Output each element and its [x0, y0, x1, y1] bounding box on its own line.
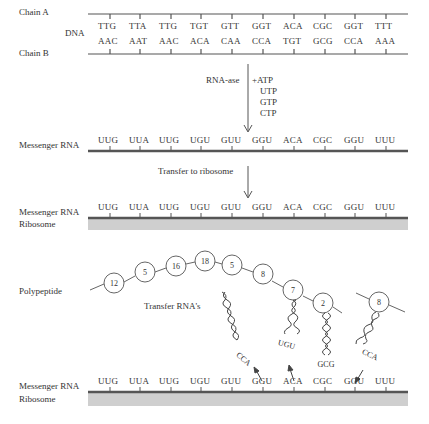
- mrna-2-label: Messenger RNA: [19, 207, 79, 217]
- codon: TGT: [283, 36, 301, 46]
- chain-a-label: Chain A: [19, 7, 49, 17]
- codon: GGU: [252, 202, 272, 212]
- svg-text:8: 8: [261, 270, 265, 279]
- substrate-atp: +ATP: [252, 75, 273, 85]
- polypeptide-chain: [90, 251, 405, 313]
- svg-text:7: 7: [291, 286, 295, 295]
- mrna-3-label: Messenger RNA: [19, 381, 79, 391]
- codon: UUG: [98, 135, 118, 145]
- ribosome-1: [88, 218, 408, 230]
- codon: UUA: [129, 135, 149, 145]
- svg-text:2: 2: [321, 299, 325, 308]
- svg-text:GCG: GCG: [318, 360, 335, 369]
- codon: AAC: [159, 36, 179, 46]
- anticodon-labels: CCA UGU GCG CCA: [234, 338, 379, 369]
- mrna-3-strand: [88, 387, 408, 392]
- codon: CAA: [221, 36, 241, 46]
- codon: ACA: [190, 36, 210, 46]
- codon: GUU: [221, 376, 241, 386]
- codon: UUU: [375, 202, 395, 212]
- codon: UUG: [159, 202, 179, 212]
- ribosome-2-label: Ribosome: [19, 394, 56, 404]
- codon: CGC: [313, 376, 332, 386]
- codon: GGU: [344, 376, 364, 386]
- codon: TTG: [159, 21, 177, 31]
- svg-text:5: 5: [143, 268, 147, 277]
- codon: TGT: [190, 21, 208, 31]
- codon: GGT: [252, 21, 271, 31]
- mrna-2-strand: [88, 213, 408, 218]
- transfer-arrow: [244, 166, 252, 198]
- rna-ase-label: RNA-ase: [206, 75, 240, 85]
- codon: UUG: [98, 376, 118, 386]
- trna-2-helix: [284, 300, 299, 334]
- codon: GGU: [252, 376, 272, 386]
- codon: UUU: [375, 135, 395, 145]
- codon: UUU: [375, 376, 395, 386]
- mrna-1-strand: [88, 146, 408, 151]
- codon: ACA: [283, 202, 303, 212]
- trna-4-helix: [356, 312, 379, 344]
- codon: AAA: [375, 36, 395, 46]
- codon: AAT: [129, 36, 147, 46]
- transcription-arrow: [244, 64, 252, 132]
- codon: GGU: [344, 135, 364, 145]
- codon: UUA: [129, 202, 149, 212]
- codon: GUU: [221, 135, 241, 145]
- dna-chain-b-strand: [88, 49, 408, 54]
- codon: TTA: [129, 21, 147, 31]
- svg-text:CCA: CCA: [361, 347, 380, 362]
- codon: GGT: [344, 21, 363, 31]
- substrate-utp: UTP: [260, 86, 277, 96]
- svg-text:CCA: CCA: [234, 350, 253, 368]
- svg-text:16: 16: [172, 262, 180, 271]
- codon: ACA: [283, 376, 303, 386]
- codon: UUG: [98, 202, 118, 212]
- codon: CGC: [313, 202, 332, 212]
- substrate-gtp: GTP: [260, 97, 277, 107]
- polypeptide-label: Polypeptide: [19, 286, 62, 296]
- codon: GTT: [221, 21, 239, 31]
- codon: ACA: [283, 21, 303, 31]
- codon: UGU: [190, 202, 210, 212]
- svg-text:5: 5: [230, 261, 234, 270]
- mrna-1-label: Messenger RNA: [19, 140, 79, 150]
- ribosome-1-label: Ribosome: [19, 219, 56, 229]
- codon: UUA: [129, 376, 149, 386]
- trna-3-helix: [323, 313, 331, 355]
- codon: ACA: [283, 135, 303, 145]
- codon: AAC: [98, 36, 118, 46]
- trna-helices: [222, 292, 379, 355]
- svg-text:18: 18: [201, 257, 209, 266]
- codon: CCA: [344, 36, 363, 46]
- dna-chain-a-strand: [88, 14, 408, 19]
- codon: GGU: [252, 135, 272, 145]
- trna-1-helix: [222, 292, 239, 340]
- dna-label: DNA: [65, 28, 85, 38]
- codon: GUU: [221, 202, 241, 212]
- codon: TTT: [375, 21, 392, 31]
- transfer-rnas-label: Transfer RNA's: [144, 301, 201, 311]
- transfer-to-ribosome-label: Transfer to ribosome: [158, 166, 233, 176]
- codon: CGC: [313, 135, 332, 145]
- svg-text:12: 12: [110, 279, 118, 288]
- codon: UUG: [159, 376, 179, 386]
- svg-text:UGU: UGU: [277, 338, 296, 351]
- codon: UUG: [159, 135, 179, 145]
- codon: GCG: [313, 36, 333, 46]
- substrate-ctp: CTP: [260, 108, 277, 118]
- svg-text:8: 8: [377, 298, 381, 307]
- ribosome-2: [88, 392, 408, 406]
- codon: UGU: [190, 376, 210, 386]
- codon: TTG: [98, 21, 116, 31]
- codon: UGU: [190, 135, 210, 145]
- codon: CGC: [313, 21, 332, 31]
- chain-b-label: Chain B: [19, 48, 49, 58]
- codon: GGU: [344, 202, 364, 212]
- codon: CCA: [252, 36, 271, 46]
